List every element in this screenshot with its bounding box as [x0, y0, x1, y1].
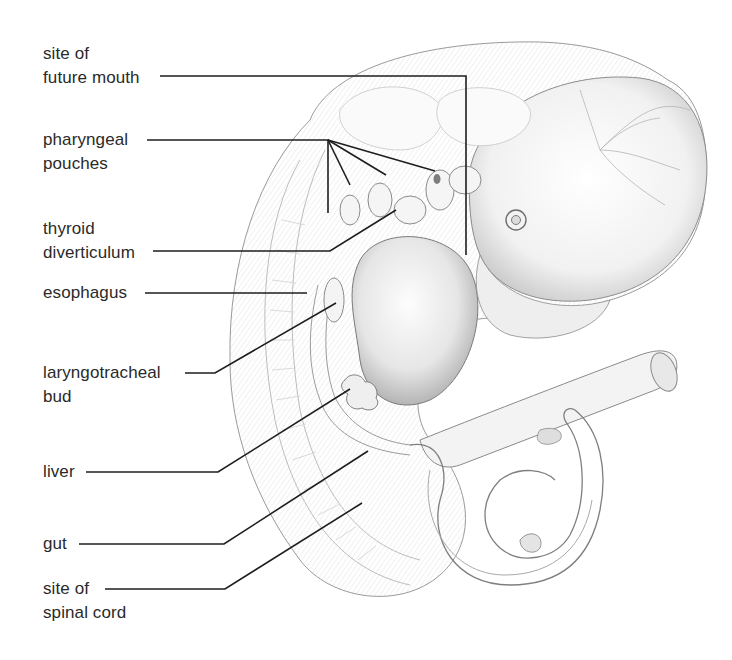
label-site-of-spinal-cord: site of spinal cord	[43, 577, 126, 625]
label-pharyngeal-pouches: pharyngeal pouches	[43, 128, 128, 176]
label-gut: gut	[43, 532, 67, 556]
label-site-of-future-mouth: site of future mouth	[43, 42, 140, 90]
label-liver: liver	[43, 460, 75, 484]
laryngotracheal-bud	[324, 278, 344, 322]
label-esophagus: esophagus	[43, 281, 127, 305]
embryo-illustration	[0, 0, 732, 660]
heart	[352, 237, 478, 405]
label-thyroid-diverticulum: thyroid diverticulum	[43, 217, 135, 265]
label-laryngotracheal-bud: laryngotracheal bud	[43, 361, 161, 409]
